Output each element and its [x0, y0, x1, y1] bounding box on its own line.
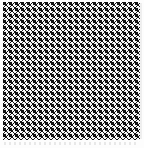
bottom-scan-artifact — [4, 142, 138, 145]
right-scan-artifact — [140, 3, 142, 139]
houndstooth-pattern-field — [3, 2, 140, 140]
houndstooth-pattern-canvas — [3, 2, 140, 140]
texture-swatch-image: Houndstooth Texture Swatch Black and whi… — [0, 0, 144, 148]
